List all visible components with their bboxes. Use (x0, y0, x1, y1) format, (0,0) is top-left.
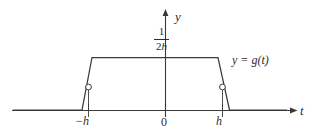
x-tick-label-positive-h: h (216, 115, 222, 127)
amplitude-denominator: 2h (154, 40, 169, 53)
x-tick-label-origin: 0 (161, 116, 167, 128)
plot-canvas (0, 0, 318, 139)
x-tick-label-negative-h: −h (75, 115, 89, 127)
figure-container: y t 1 2h −h 0 h y = g(t) (0, 0, 318, 139)
amplitude-fraction-label: 1 2h (154, 26, 169, 52)
amplitude-numerator: 1 (157, 26, 167, 39)
open-circle-marker-left (86, 84, 92, 90)
t-axis-arrow-icon (290, 108, 298, 114)
y-axis-label: y (175, 10, 181, 23)
amplitude-denominator-variable: h (162, 40, 168, 52)
t-axis-label: t (300, 104, 304, 117)
function-curve-label: y = g(t) (232, 54, 269, 66)
y-axis-arrow-icon (163, 9, 169, 16)
open-circle-marker-right (220, 84, 226, 90)
